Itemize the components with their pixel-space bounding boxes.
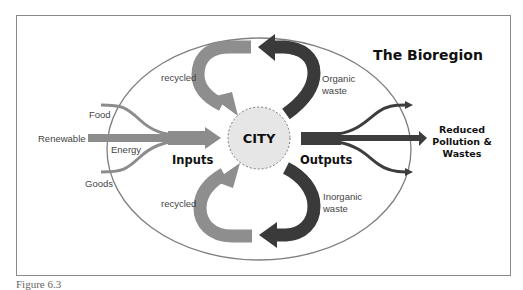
goods-label: Goods xyxy=(85,178,113,189)
figure-caption: Figure 6.3 xyxy=(16,279,61,290)
outputs-label: Outputs xyxy=(300,153,352,167)
city-label: CITY xyxy=(243,131,276,146)
destination-label-line3: Wastes xyxy=(443,148,482,159)
destination-label-line2: Pollution & xyxy=(432,136,491,147)
energy-label: Energy xyxy=(111,144,141,155)
recycled-bottom-label: recycled xyxy=(161,198,196,209)
organic-waste-label-line2: waste xyxy=(321,85,347,96)
inputs-label: Inputs xyxy=(172,153,213,167)
renewable-label: Renewable xyxy=(38,133,86,144)
inorganic-waste-label-line1: Inorganic xyxy=(323,191,362,202)
recycled-top-label: recycled xyxy=(161,72,196,83)
destination-label-line1: Reduced xyxy=(439,124,485,135)
inorganic-waste-label-line2: waste xyxy=(322,203,348,214)
diagram-title: The Bioregion xyxy=(373,47,483,63)
organic-waste-label-line1: Organic xyxy=(322,73,356,84)
food-label: Food xyxy=(89,109,111,120)
